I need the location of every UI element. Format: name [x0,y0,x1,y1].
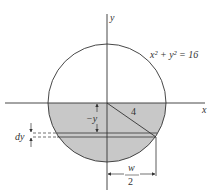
half-width-denominator: 2 [128,176,133,187]
radius-label: 4 [131,106,136,117]
dy-label: dy [15,131,25,142]
equation-label: x² + y² = 16 [149,49,198,60]
x-axis-label: x [201,104,207,115]
circle-strip-diagram: y x x² + y² = 16 4 −y dy w 2 [0,0,215,196]
y-axis-label: y [109,12,115,23]
depth-label: −y [86,113,98,124]
half-width-numerator: w [128,162,135,173]
